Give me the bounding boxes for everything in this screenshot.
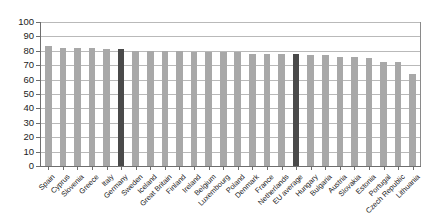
bar-belgium xyxy=(205,52,212,166)
grid-line-80 xyxy=(41,51,420,52)
bar-germany xyxy=(118,49,125,166)
x-tick-mark-9 xyxy=(179,166,180,170)
plot-area xyxy=(41,22,420,166)
grid-line-100 xyxy=(41,22,420,23)
x-tick-mark-22 xyxy=(369,166,370,170)
bar-slovenia xyxy=(74,48,81,166)
grid-line-50 xyxy=(41,94,420,95)
bar-bulgaria xyxy=(322,55,329,166)
x-tick-mark-0 xyxy=(48,166,49,170)
x-tick-mark-18 xyxy=(311,166,312,170)
bar-cyprus xyxy=(60,48,67,166)
grid-line-60 xyxy=(41,80,420,81)
y-tick-label-90: 90 xyxy=(2,32,34,42)
bar-ireland xyxy=(191,52,198,166)
y-tick-label-30: 30 xyxy=(2,118,34,128)
x-tick-mark-17 xyxy=(296,166,297,170)
x-tick-mark-6 xyxy=(136,166,137,170)
bar-sweden xyxy=(132,51,139,166)
bar-austria xyxy=(337,57,344,166)
bar-czech-republic xyxy=(395,62,402,166)
x-tick-mark-2 xyxy=(77,166,78,170)
x-tick-mark-16 xyxy=(282,166,283,170)
bar-poland xyxy=(234,52,241,166)
y-axis-line xyxy=(40,22,41,167)
x-tick-mark-5 xyxy=(121,166,122,170)
x-tick-mark-14 xyxy=(252,166,253,170)
y-tick-label-50: 50 xyxy=(2,89,34,99)
bar-greece xyxy=(89,48,96,166)
x-tick-mark-24 xyxy=(398,166,399,170)
x-tick-mark-1 xyxy=(63,166,64,170)
x-tick-mark-21 xyxy=(354,166,355,170)
bar-eu-average xyxy=(293,54,300,166)
bar-italy xyxy=(103,49,110,166)
x-tick-mark-3 xyxy=(92,166,93,170)
x-tick-mark-4 xyxy=(107,166,108,170)
y-tick-label-20: 20 xyxy=(2,132,34,142)
x-axis-labels: SpainCyprusSloveniaGreeceItalyGermanySwe… xyxy=(0,166,435,216)
y-tick-label-10: 10 xyxy=(2,147,34,157)
x-tick-mark-25 xyxy=(413,166,414,170)
bar-luxembourg xyxy=(220,52,227,166)
grid-line-10 xyxy=(41,152,420,153)
bar-denmark xyxy=(249,54,256,166)
grid-line-70 xyxy=(41,65,420,66)
x-tick-mark-8 xyxy=(165,166,166,170)
bar-great-britain xyxy=(162,51,169,166)
y-tick-label-60: 60 xyxy=(2,75,34,85)
x-tick-mark-13 xyxy=(238,166,239,170)
x-tick-mark-7 xyxy=(150,166,151,170)
grid-line-40 xyxy=(41,108,420,109)
bar-spain xyxy=(45,46,52,166)
bar-france xyxy=(264,54,271,166)
x-tick-mark-11 xyxy=(209,166,210,170)
bar-slovakia xyxy=(351,57,358,166)
grid-line-30 xyxy=(41,123,420,124)
grid-line-20 xyxy=(41,137,420,138)
bar-lithuania xyxy=(409,74,416,166)
y-tick-label-70: 70 xyxy=(2,60,34,70)
bar-netherlands xyxy=(278,54,285,166)
bar-chart: 0102030405060708090100 SpainCyprusSloven… xyxy=(0,0,435,216)
y-axis-right-line xyxy=(420,22,421,167)
x-tick-mark-12 xyxy=(223,166,224,170)
y-tick-label-100: 100 xyxy=(2,17,34,27)
x-tick-mark-23 xyxy=(384,166,385,170)
x-tick-mark-19 xyxy=(325,166,326,170)
x-tick-mark-10 xyxy=(194,166,195,170)
y-tick-label-80: 80 xyxy=(2,46,34,56)
grid-line-90 xyxy=(41,36,420,37)
y-tick-label-40: 40 xyxy=(2,104,34,114)
bar-hungary xyxy=(307,55,314,166)
bar-estonia xyxy=(366,58,373,166)
bar-finland xyxy=(176,51,183,166)
x-tick-mark-20 xyxy=(340,166,341,170)
bar-iceland xyxy=(147,51,154,166)
x-tick-mark-15 xyxy=(267,166,268,170)
bar-portugal xyxy=(380,62,387,166)
